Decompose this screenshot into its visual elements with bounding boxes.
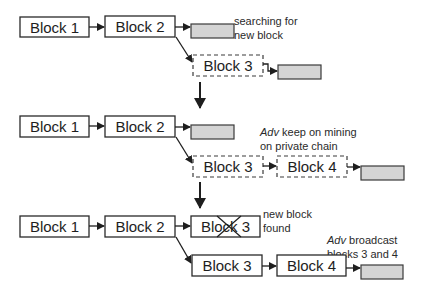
block-label: Block 3 [203,57,252,74]
row1-block-3-private: Block 3 [193,55,263,76]
row-3: Block 1 Block 2 Block 3 new block found … [20,208,403,279]
fork-arrow-icon [176,137,192,163]
row1-block-1: Block 1 [20,17,89,37]
row3-block-3-orphaned: Block 3 [191,216,260,237]
note-keep-mining-line1: Adv keep on mining [259,126,357,138]
fork-arrow-icon [176,37,192,62]
adv-label: Adv [326,234,347,246]
row-1: Block 1 Block 2 searching for new block … [20,15,321,79]
row2-block-2: Block 2 [105,116,175,137]
pending-block [191,24,234,38]
block-label: Block 2 [115,218,164,235]
row1-block-2: Block 2 [105,16,175,37]
block-label: Block 2 [115,18,164,35]
block-label: Block 3 [201,218,250,235]
adv-label: Adv [259,126,280,138]
note-searching-line2: new block [234,29,283,41]
block-label: Block 4 [287,257,336,274]
note-text: keep on mining [279,126,357,138]
row3-block-3-published: Block 3 [192,255,262,276]
row2-block-4-private: Block 4 [277,156,347,177]
pending-block [361,265,403,279]
note-keep-mining-line2: on private chain [260,140,338,152]
row2-block-3-private: Block 3 [193,156,263,177]
pending-block [278,65,321,79]
block-label: Block 3 [202,257,251,274]
note-searching-line1: searching for [234,15,298,27]
fork-arrow-icon [176,237,191,263]
note-found-line1: new block [263,208,312,220]
block-label: Block 3 [203,158,252,175]
row3-block-4-published: Block 4 [277,255,346,276]
row-2: Block 1 Block 2 Adv keep on mining on pr… [20,116,404,180]
note-broadcast-line1: Adv broadcast [326,234,397,246]
block-label: Block 4 [287,158,336,175]
selfish-mining-diagram: Block 1 Block 2 searching for new block … [0,0,421,295]
row2-block-1: Block 1 [20,116,89,137]
block-label: Block 1 [30,19,79,36]
row3-block-2: Block 2 [105,216,175,237]
block-label: Block 2 [115,118,164,135]
arrow-icon [263,64,277,71]
note-found-line2: found [263,222,291,234]
row3-block-1: Block 1 [20,216,89,237]
block-label: Block 1 [30,218,79,235]
note-text: broadcast [346,234,397,246]
pending-block [191,125,234,139]
block-label: Block 1 [30,118,79,135]
pending-block [361,166,404,180]
